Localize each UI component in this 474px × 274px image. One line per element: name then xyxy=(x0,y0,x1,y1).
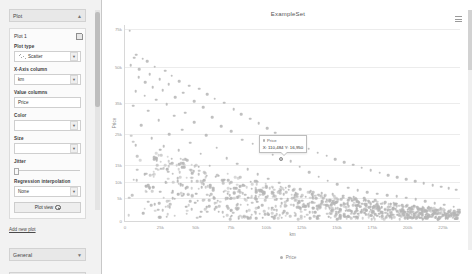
chart-scrollbar[interactable] xyxy=(468,10,472,250)
scatter-point xyxy=(193,100,196,103)
scatter-point xyxy=(144,190,147,193)
chevron-up-icon[interactable]: ▲ xyxy=(77,13,82,19)
scatter-point xyxy=(431,213,434,216)
y-tick-label: 50k xyxy=(115,65,122,70)
config-panel-scrollbar[interactable] xyxy=(95,10,100,210)
chevron-down-icon[interactable]: ▼ xyxy=(77,252,82,258)
scatter-point xyxy=(301,194,304,197)
scatter-point xyxy=(410,215,413,218)
scatter-point xyxy=(183,166,186,169)
scatter-point xyxy=(257,122,260,125)
scatter-point xyxy=(166,103,169,106)
add-new-plot-link[interactable]: Add new plot xyxy=(9,227,86,232)
scatter-point xyxy=(141,58,144,61)
chevron-down-icon[interactable]: ▼ xyxy=(70,52,78,61)
plot-section-header[interactable]: Plot ▲ xyxy=(9,9,86,22)
scatter-point xyxy=(180,192,183,195)
scatter-point xyxy=(188,84,191,87)
scatter-point xyxy=(264,199,267,202)
plot-card-header: Plot 1 xyxy=(14,33,81,39)
scatter-point xyxy=(191,208,194,211)
value-columns-field[interactable]: Price xyxy=(14,97,81,108)
general-section-header[interactable]: General ▼ xyxy=(9,248,86,261)
scatter-point xyxy=(171,172,174,175)
scatter-point xyxy=(204,186,207,189)
scatter-point xyxy=(385,215,388,218)
scatter-point xyxy=(223,101,226,104)
trash-icon[interactable] xyxy=(76,33,81,39)
scatter-point xyxy=(240,203,243,206)
regression-interpolation-select[interactable]: None ▼ xyxy=(14,186,81,197)
scatter-point xyxy=(134,90,137,93)
scatter-point xyxy=(185,187,188,190)
scatter-point xyxy=(307,205,310,208)
color-select[interactable]: ▼ xyxy=(14,120,81,131)
size-select[interactable]: ▼ xyxy=(14,143,81,154)
scatter-point xyxy=(347,198,350,201)
scatter-point xyxy=(275,209,278,212)
scatter-point xyxy=(304,195,307,198)
scatter-point xyxy=(298,166,301,169)
scatter-point xyxy=(199,215,202,218)
scatter-point xyxy=(158,202,161,205)
legend-label: Price xyxy=(286,255,296,260)
jitter-slider[interactable] xyxy=(14,166,81,174)
scatter-point xyxy=(235,207,238,210)
scatter-point xyxy=(361,202,364,205)
x-tick-label: 50k xyxy=(192,225,199,230)
scatter-point xyxy=(290,160,293,163)
scatter-point xyxy=(246,168,249,171)
chevron-down-icon[interactable]: ▼ xyxy=(70,75,78,84)
plot-canvas[interactable]: 05k10k15k25k35k50k75k 025k50k75k100k125k… xyxy=(124,25,460,222)
scatter-point xyxy=(455,188,458,191)
scatter-point xyxy=(271,153,274,156)
scatter-point xyxy=(247,217,250,220)
scatter-point xyxy=(251,143,254,146)
scatter-point xyxy=(261,204,264,207)
y-tick-label: 25k xyxy=(115,131,122,136)
chart-scrollbar-thumb[interactable] xyxy=(468,10,472,70)
scatter-point xyxy=(327,180,330,183)
chevron-down-icon[interactable]: ▼ xyxy=(70,144,78,153)
scatter-point xyxy=(315,197,318,200)
scatter-point xyxy=(160,160,163,163)
config-panel-scrollbar-thumb[interactable] xyxy=(95,12,100,107)
legend-marker-icon xyxy=(280,256,283,259)
plot-type-select[interactable]: Scatter ▼ xyxy=(14,51,81,62)
scatter-point xyxy=(266,211,269,214)
scatter-point xyxy=(407,207,410,210)
scatter-point xyxy=(196,216,199,219)
scatter-point xyxy=(327,215,330,218)
scatter-point xyxy=(376,192,379,195)
plot-card: Plot 1 Plot type Scatter ▼ X- xyxy=(9,28,86,219)
scatter-point xyxy=(349,209,352,212)
scatter-point xyxy=(417,215,420,218)
plot-view-button[interactable]: Plot view xyxy=(14,202,81,213)
scatter-point xyxy=(318,206,321,209)
highlighted-point[interactable] xyxy=(279,157,283,161)
scatter-point xyxy=(352,164,355,167)
scatter-point xyxy=(155,152,158,155)
scatter-point xyxy=(401,209,404,212)
scatter-point xyxy=(178,149,181,152)
chevron-down-icon[interactable]: ▼ xyxy=(70,187,78,196)
chevron-down-icon[interactable]: ▼ xyxy=(70,121,78,130)
scatter-point xyxy=(280,202,283,205)
scatter-point xyxy=(271,186,274,189)
scatter-point xyxy=(331,210,334,213)
scatter-point xyxy=(132,105,135,108)
scatter-point xyxy=(402,213,405,216)
scatter-point xyxy=(355,203,358,206)
scatter-point xyxy=(426,217,429,220)
hamburger-menu-icon[interactable] xyxy=(455,16,462,22)
scatter-point xyxy=(283,211,286,214)
scatter-point xyxy=(227,187,230,190)
scatter-point xyxy=(355,215,358,218)
scatter-point xyxy=(159,148,162,151)
scatter-point xyxy=(163,197,166,200)
scatter-point xyxy=(328,200,331,203)
scatter-point xyxy=(249,180,252,183)
x-axis-column-select[interactable]: km ▼ xyxy=(14,74,81,85)
x-tick-label: 75k xyxy=(227,225,234,230)
chart-area: ExampleSet 05k10k15k25k35k50k75k 025k50k… xyxy=(102,0,474,274)
